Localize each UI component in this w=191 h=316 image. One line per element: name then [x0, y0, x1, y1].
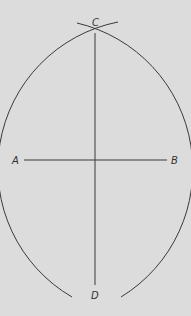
construction-figure: A B C D — [0, 0, 191, 316]
label-d: D — [91, 290, 99, 301]
label-a: A — [11, 155, 19, 166]
label-c: C — [92, 17, 99, 28]
label-b: B — [171, 155, 178, 166]
diagram-canvas: A B C D — [0, 0, 191, 316]
